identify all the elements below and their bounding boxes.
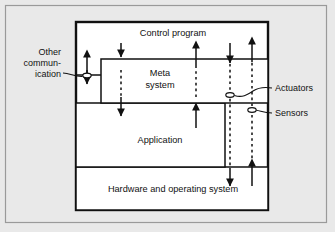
label-actuators: Actuators — [275, 83, 314, 93]
label-other-communication-line2: commun- — [23, 58, 61, 68]
architecture-diagram: Control program Meta system Application … — [0, 0, 335, 232]
diagram-canvas: Control program Meta system Application … — [0, 0, 335, 232]
label-other-communication-line3: ication — [35, 69, 61, 79]
label-hardware-os: Hardware and operating system — [108, 184, 239, 194]
label-sensors: Sensors — [275, 108, 309, 118]
label-application: Application — [138, 135, 183, 145]
label-meta-system-line2: system — [145, 80, 174, 90]
port-actuators — [226, 93, 234, 98]
label-control-program: Control program — [140, 28, 207, 38]
label-other-communication-line1: Other — [38, 47, 61, 57]
port-sensors — [248, 108, 256, 113]
port-other-communication — [83, 73, 91, 78]
label-meta-system-line1: Meta — [150, 68, 171, 78]
